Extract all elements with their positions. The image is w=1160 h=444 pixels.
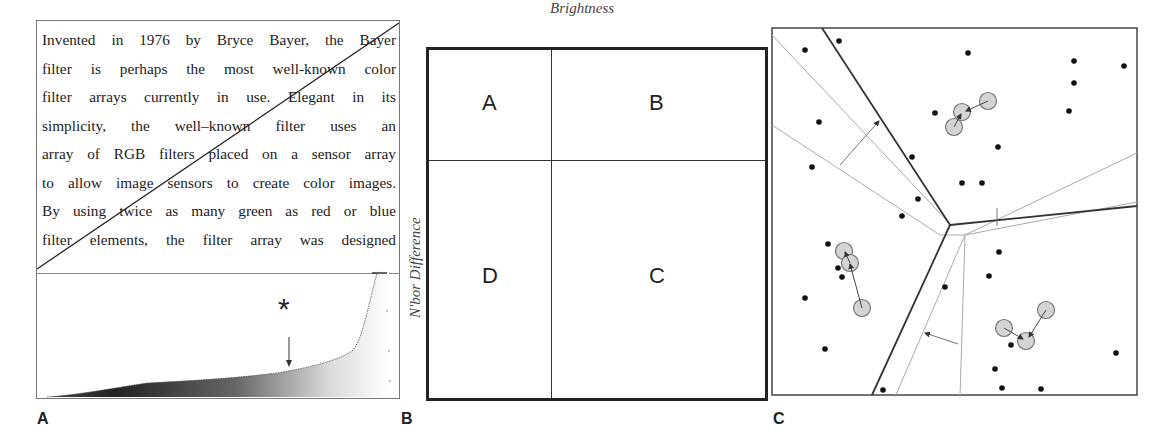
quadrant-d: D — [482, 263, 498, 289]
horizontal-divider — [429, 160, 765, 161]
panel-b-quadrant-diagram: A B D C — [426, 47, 768, 401]
asterisk-marker: * — [278, 294, 290, 324]
vertical-divider — [551, 50, 552, 398]
quadrant-a: A — [482, 90, 497, 116]
quadrant-b: B — [649, 90, 664, 116]
panel-label-a: A — [37, 410, 49, 428]
histogram-graphic — [37, 21, 399, 398]
panel-c-clustering-diagram — [771, 27, 1139, 397]
panel-a-text-histogram: Invented in 1976 by Bryce Bayer, the Bay… — [36, 20, 400, 399]
x-axis-label-brightness: Brightness — [550, 0, 614, 17]
histogram-fill — [47, 271, 389, 397]
panel-label-b: B — [401, 410, 413, 428]
panel-label-c: C — [773, 410, 785, 428]
quadrant-c: C — [649, 263, 665, 289]
diagonal-line — [37, 23, 399, 269]
y-axis-label-nbor-difference: N'bor Difference — [407, 217, 424, 318]
